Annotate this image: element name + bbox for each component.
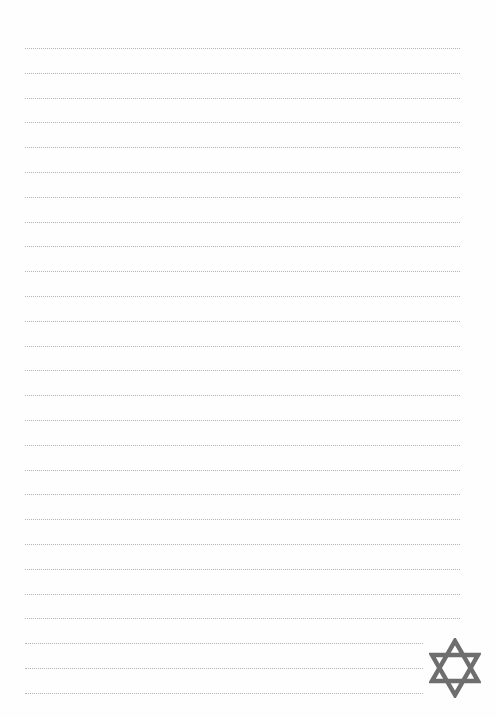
ruled-line [25,321,460,322]
ruled-line [25,569,460,570]
ruled-line [25,370,460,371]
ruled-line [25,594,460,595]
ruled-line [25,197,460,198]
ruled-line [25,346,460,347]
ruled-line [25,48,460,49]
ruled-line [25,172,460,173]
ruled-line [25,296,460,297]
ruled-line [25,73,460,74]
ruled-line [25,147,460,148]
ruled-line [25,643,423,644]
ruled-line [25,222,460,223]
ruled-line [25,395,460,396]
ruled-line [25,246,460,247]
ruled-line [25,445,460,446]
ruled-line [25,494,460,495]
ruled-line [25,693,423,694]
ruled-line [25,271,460,272]
ruled-line [25,618,460,619]
ruled-line [25,544,460,545]
ruled-line [25,98,460,99]
ruled-line [25,470,460,471]
ruled-line [25,668,423,669]
ruled-line [25,122,460,123]
lined-paper-page [0,0,496,718]
ruled-line [25,420,460,421]
star-of-david-icon [429,638,481,698]
ruled-line [25,519,460,520]
